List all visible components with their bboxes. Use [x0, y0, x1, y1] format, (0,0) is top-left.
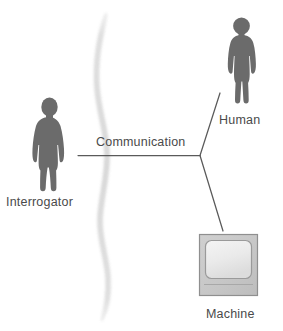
human-label: Human: [219, 114, 260, 127]
diagram-canvas: Interrogator Human Machine Communication: [0, 0, 283, 331]
communication-label: Communication: [96, 136, 185, 149]
machine-label: Machine: [206, 308, 255, 321]
crt-monitor-screen: [206, 241, 252, 279]
interrogator-label: Interrogator: [6, 196, 73, 209]
machine-figure[interactable]: [0, 0, 283, 331]
